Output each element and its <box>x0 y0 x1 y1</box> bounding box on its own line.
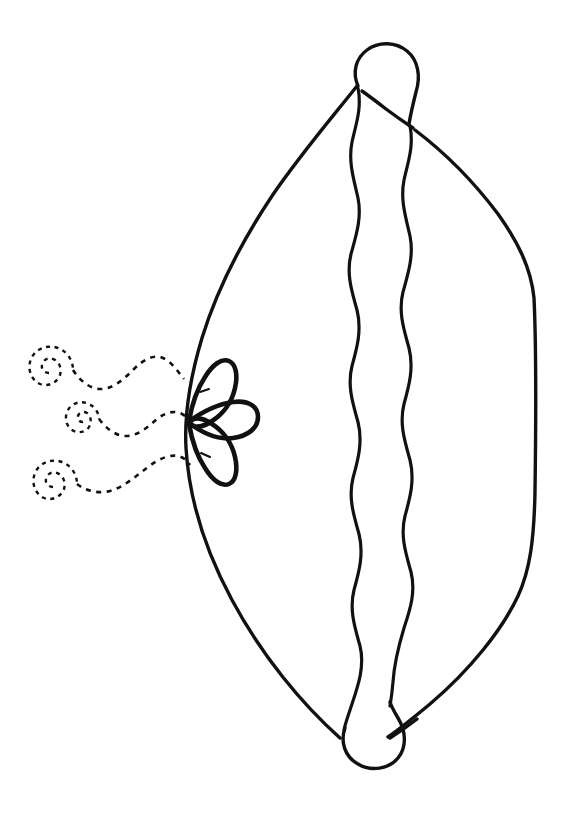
swirl-middle-trail <box>99 412 189 436</box>
ruffle-line-right <box>390 126 413 706</box>
body-left-bulge-path <box>186 86 357 738</box>
body-upper-seam-path <box>362 91 413 128</box>
coloring-page-canvas: Line Art Coloring Page <box>0 0 571 821</box>
petal-upper-tick <box>200 389 209 392</box>
ruffle-line-left <box>344 88 362 730</box>
petal-lower-tick <box>201 453 210 457</box>
swirl-bottom <box>33 456 190 499</box>
swirl-middle-spiral <box>66 402 99 432</box>
swirl-top-spiral <box>29 347 73 385</box>
wavy-ruffle-spine <box>344 88 413 730</box>
top-knob <box>355 44 418 124</box>
line-art-illustration: Line Art Coloring Page <box>0 0 571 821</box>
swirl-bottom-trail <box>77 456 190 493</box>
dashed-swirl-group <box>29 347 190 499</box>
top-knob-path <box>355 44 418 124</box>
body-right-panel-path <box>388 130 536 737</box>
swirl-top <box>29 347 184 389</box>
petal-cluster <box>188 360 258 485</box>
pillow-body-outline <box>186 86 536 738</box>
swirl-top-trail <box>73 357 184 389</box>
swirl-bottom-spiral <box>33 461 77 499</box>
swirl-middle <box>66 402 189 436</box>
